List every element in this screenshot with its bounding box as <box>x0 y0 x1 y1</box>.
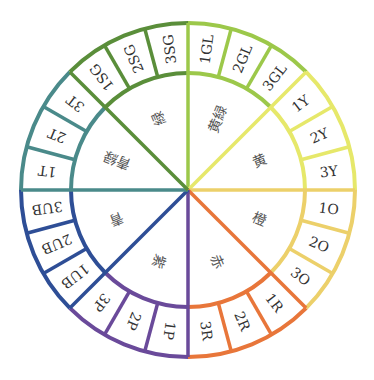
segment-label-3p: 3P <box>90 291 114 315</box>
segment-label-1o: 1O <box>318 199 340 218</box>
segment-label-1ub: 1UB <box>58 261 92 293</box>
sector-label: 青 <box>107 209 126 229</box>
segment-label-2gl: 2GL <box>229 42 255 75</box>
sector-label: 黄緑 <box>205 103 230 135</box>
segment-label-1sg: 1SG <box>86 61 117 94</box>
segment-label-3t: 3T <box>63 91 88 115</box>
segment-divider <box>301 220 349 233</box>
segment-label-2sg: 2SG <box>121 42 147 76</box>
segment-label-1r: 1R <box>262 290 287 316</box>
inner-ring-arc <box>71 107 105 190</box>
segment-label-1y: 1Y <box>289 91 314 115</box>
segment-label-3o: 3O <box>288 264 314 289</box>
sector-label: 黄 <box>250 150 269 170</box>
sector-label: 青緑 <box>101 148 133 173</box>
segment-label-3gl: 3GL <box>259 61 290 94</box>
inner-ring-arc <box>105 273 188 307</box>
segment-divider <box>27 147 75 160</box>
segment-label-1p: 1P <box>160 321 178 341</box>
inner-ring-arc <box>188 273 271 307</box>
color-wheel-diagram: 1GL2GL3GL1Y2Y3Y1O2O3O1R2R3R1P2P3P1UB2UB3… <box>0 0 374 380</box>
segment-label-2r: 2R <box>231 309 253 334</box>
inner-ring-arc <box>271 190 305 273</box>
inner-ring-arc <box>71 190 105 273</box>
inner-ring-arc <box>105 73 188 107</box>
segment-label-3r: 3R <box>197 320 215 342</box>
segment-label-3sg: 3SG <box>160 33 180 65</box>
segment-divider <box>145 303 158 351</box>
segment-label-3ub: 3UB <box>31 199 64 219</box>
sector-label: 紫 <box>148 252 168 271</box>
segment-divider <box>301 147 349 160</box>
segment-label-2o: 2O <box>307 233 332 256</box>
segment-label-2ub: 2UB <box>39 231 74 258</box>
segment-label-2t: 2T <box>45 125 69 147</box>
segment-label-2y: 2Y <box>308 125 332 147</box>
segment-label-1t: 1T <box>36 162 57 180</box>
segment-label-1gl: 1GL <box>197 34 217 65</box>
inner-ring-arc <box>271 107 305 190</box>
sector-label: 橙 <box>250 209 269 229</box>
wheel-spokes <box>21 23 355 357</box>
inner-ring-arc <box>188 73 271 107</box>
segment-label-2p: 2P <box>123 310 145 333</box>
segment-divider <box>218 303 231 351</box>
segment-label-3y: 3Y <box>319 162 340 180</box>
sector-label: 緑 <box>148 109 168 128</box>
sector-label: 赤 <box>207 252 227 271</box>
